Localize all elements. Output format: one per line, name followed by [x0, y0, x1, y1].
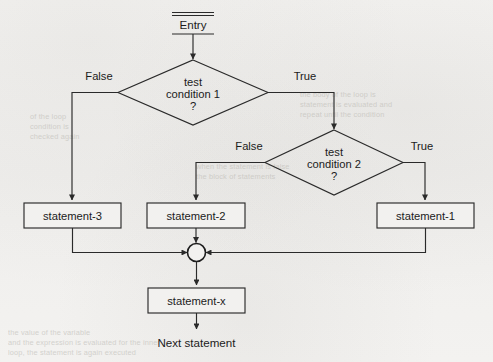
process-statement-1: statement-1	[377, 203, 474, 228]
edge-statement1-to-connector	[206, 228, 426, 253]
decision1-true-label: True	[294, 70, 317, 82]
decision1-line2: condition 1	[166, 88, 220, 100]
merge-connector	[188, 244, 206, 262]
decision2-line2: condition 2	[307, 158, 361, 170]
decision-test-condition-2: test condition 2 ?	[265, 130, 403, 195]
decision1-line1: test	[184, 76, 203, 88]
edge-statement3-to-connector	[73, 228, 188, 253]
statement1-label: statement-1	[396, 210, 455, 222]
statement2-label: statement-2	[166, 210, 225, 222]
statementx-label: statement-x	[167, 295, 226, 307]
entry-terminator: Entry	[172, 13, 214, 35]
decision-test-condition-1: test condition 1 ?	[118, 60, 268, 125]
entry-label: Entry	[179, 18, 206, 31]
edge-decision2-true-to-statement1	[403, 163, 425, 201]
decision2-line3: ?	[331, 170, 337, 182]
edge-decision2-false-to-statement2	[196, 163, 265, 201]
edge-decision1-true-to-decision2	[268, 93, 334, 130]
edge-decision1-false-to-statement3	[72, 93, 118, 201]
decision1-false-label: False	[85, 70, 112, 82]
decision1-line3: ?	[190, 100, 196, 112]
exit-label: Next statement	[158, 336, 237, 349]
flowchart-page: the body of the loop is statement is eva…	[0, 0, 493, 362]
flowchart-canvas: Entry test condition 1 ? False True test…	[0, 0, 493, 362]
process-statement-2: statement-2	[147, 203, 245, 228]
process-statement-3: statement-3	[24, 203, 121, 228]
decision2-true-label: True	[411, 140, 434, 152]
decision2-false-label: False	[235, 140, 262, 152]
statement3-label: statement-3	[43, 210, 102, 222]
process-statement-x: statement-x	[148, 288, 245, 313]
decision2-line1: test	[325, 146, 344, 158]
